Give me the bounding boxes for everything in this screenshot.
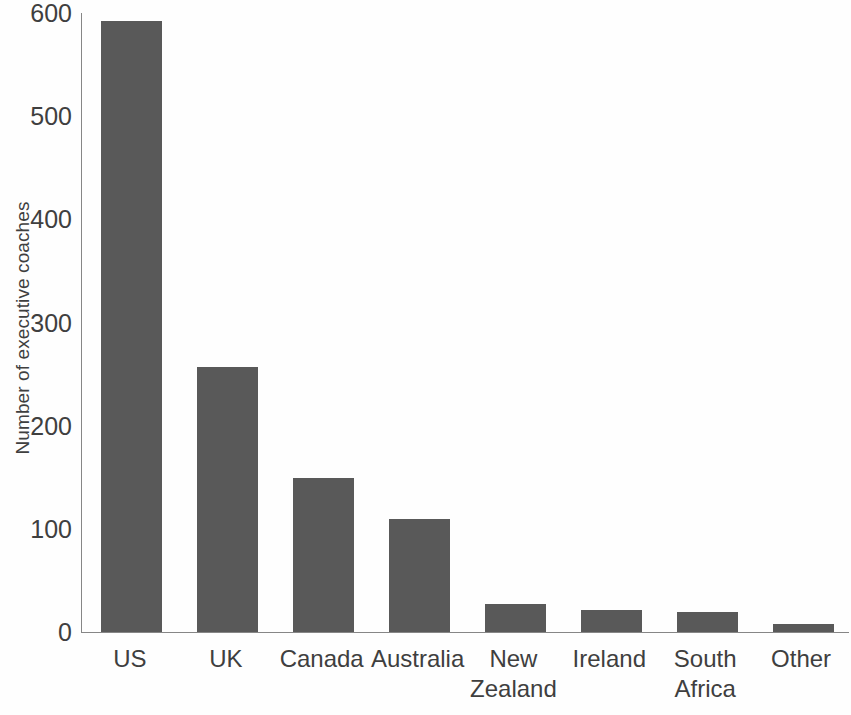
y-axis-tick-label: 500	[0, 104, 72, 129]
bar	[773, 624, 834, 632]
bar	[677, 612, 738, 632]
x-axis-tick-label: Australia	[370, 644, 466, 674]
x-axis-tick-label: Canada	[274, 644, 370, 674]
y-axis-tick-label: 200	[0, 413, 72, 438]
y-axis-tick-label: 600	[0, 1, 72, 26]
x-axis-tick-label: Other	[753, 644, 849, 674]
x-axis-line	[81, 632, 849, 633]
x-axis-tick-label-line: Zealand	[466, 674, 562, 704]
bar	[101, 21, 162, 632]
y-axis-tick-label: 100	[0, 516, 72, 541]
x-axis-tick-label: Ireland	[561, 644, 657, 674]
x-axis-tick-label-line: Other	[771, 645, 831, 672]
bar	[293, 478, 354, 632]
x-axis-tick-label: NewZealand	[466, 644, 562, 704]
x-axis-tick-label-line: Canada	[280, 645, 364, 672]
y-axis-tick-label: 400	[0, 207, 72, 232]
plot-area	[82, 13, 849, 632]
y-axis-tick-labels: 0100200300400500600	[0, 0, 72, 715]
x-axis-tick-labels: USUKCanadaAustraliaNewZealandIrelandSout…	[82, 644, 849, 714]
x-axis-tick-label-line: UK	[209, 645, 242, 672]
x-axis-tick-label-line: South	[674, 645, 737, 672]
bar-chart: Number of executive coaches 010020030040…	[0, 0, 851, 715]
bar	[197, 367, 258, 632]
x-axis-tick-label-line: New	[489, 645, 537, 672]
x-axis-tick-label: UK	[178, 644, 274, 674]
x-axis-tick-label: US	[82, 644, 178, 674]
x-axis-tick-label-line: US	[113, 645, 146, 672]
x-axis-tick-label-line: Australia	[371, 645, 464, 672]
x-axis-tick-label-line: Ireland	[573, 645, 646, 672]
x-axis-tick-label-line: Africa	[657, 674, 753, 704]
bar	[485, 604, 546, 632]
y-axis-tick-label: 300	[0, 310, 72, 335]
y-axis-tick-label: 0	[0, 620, 72, 645]
bar	[581, 610, 642, 632]
x-axis-tick-label: SouthAfrica	[657, 644, 753, 704]
bar	[389, 519, 450, 632]
